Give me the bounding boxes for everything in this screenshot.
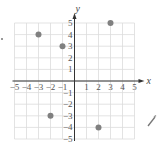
data-point [96, 124, 102, 130]
corner-mark [1, 38, 3, 40]
y-tick-label: 2 [68, 53, 73, 63]
data-point [60, 43, 66, 49]
data-point [36, 32, 42, 38]
x-tick-label: 1 [84, 82, 89, 92]
x-tick-label: 2 [96, 82, 101, 92]
x-tick-label: 4 [120, 82, 125, 92]
y-tick-label: −4 [63, 122, 73, 132]
y-tick-label: −3 [63, 111, 73, 121]
x-axis-arrow-icon [139, 79, 145, 83]
x-tick-label: 5 [132, 82, 137, 92]
pencil-icon[interactable] [147, 115, 157, 127]
x-tick-label: 3 [108, 82, 113, 92]
data-point [108, 20, 114, 26]
x-tick-label: −5 [10, 82, 20, 92]
y-tick-label: 5 [68, 18, 73, 28]
y-tick-label: −1 [63, 88, 73, 98]
y-axis-label: y [75, 3, 81, 14]
data-point [48, 113, 54, 119]
y-tick-label: −5 [63, 134, 73, 144]
y-tick-label: 1 [68, 64, 73, 74]
y-tick-label: 3 [68, 41, 73, 51]
x-tick-label: −2 [46, 82, 56, 92]
axes [13, 13, 145, 141]
x-tick-label: −4 [22, 82, 32, 92]
coordinate-plane: −5−4−3−2−112345−5−4−3−2−112345 x y [0, 0, 164, 151]
x-tick-label: −3 [34, 82, 44, 92]
y-tick-label: −2 [63, 99, 73, 109]
y-tick-label: 4 [68, 30, 73, 40]
x-axis-label: x [146, 75, 152, 86]
